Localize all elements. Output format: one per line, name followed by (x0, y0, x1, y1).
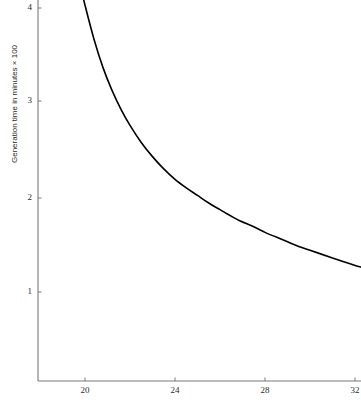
y-tick-label: 2 (14, 193, 32, 202)
x-tick-label: 28 (250, 386, 280, 395)
y-tick-label: 4 (14, 3, 32, 12)
plot-area (0, 0, 361, 405)
x-tick-label: 32 (340, 386, 361, 395)
y-tick-label: 1 (14, 287, 32, 296)
y-axis-label: Generation time in minutes × 100 (11, 0, 19, 163)
chart-figure: Generation time in minutes × 100 1234 20… (0, 0, 361, 405)
data-series-line (80, 0, 361, 267)
x-tick-label: 24 (160, 386, 190, 395)
y-tick-label: 3 (14, 96, 32, 105)
x-tick-label: 20 (70, 386, 100, 395)
